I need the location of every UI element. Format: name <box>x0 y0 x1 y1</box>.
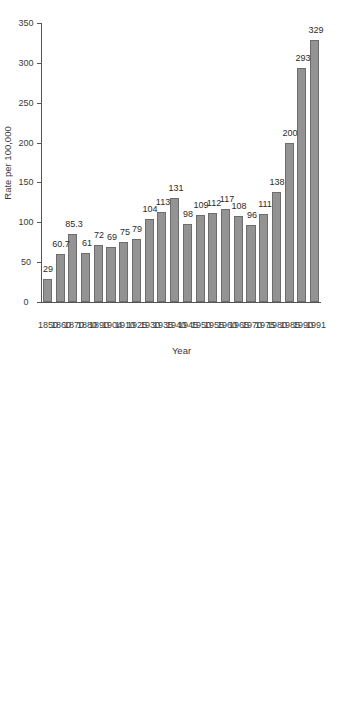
bar-value-label: 131 <box>159 183 193 193</box>
bar-value-label: 329 <box>299 25 333 35</box>
bar-value-label: 200 <box>273 128 307 138</box>
bar <box>310 40 319 302</box>
bar <box>106 247 115 302</box>
value-axis-tick-label: 250 <box>11 98 41 108</box>
bar <box>119 242 128 302</box>
value-axis-tick-label: 150 <box>11 177 41 187</box>
value-axis-tick-label: 100 <box>11 217 41 227</box>
value-axis-tick-label: 200 <box>11 138 41 148</box>
bar <box>183 224 192 302</box>
bar <box>259 214 268 302</box>
bar <box>234 216 243 302</box>
bar-value-label: 113 <box>146 197 180 207</box>
bar-value-label: 138 <box>260 177 294 187</box>
bar <box>297 68 306 302</box>
bar <box>246 225 255 302</box>
bar <box>196 215 205 302</box>
category-axis-label: 1991 <box>299 320 333 330</box>
chart-canvas: 050100150200250300350 2960.785.361726975… <box>0 0 339 721</box>
bar <box>208 213 217 302</box>
rotated-chart-container: 050100150200250300350 2960.785.361726975… <box>0 0 339 721</box>
bar-value-label: 98 <box>171 209 205 219</box>
bar-value-label: 293 <box>286 53 320 63</box>
bar-value-label: 85.3 <box>57 219 91 229</box>
bar <box>157 212 166 302</box>
value-axis-spine <box>41 23 42 302</box>
bar-value-label: 111 <box>248 199 282 209</box>
value-axis-tick-label: 350 <box>11 18 41 28</box>
bar <box>94 245 103 302</box>
value-axis-tick-label: 300 <box>11 58 41 68</box>
bar <box>43 279 52 302</box>
bar <box>81 253 90 302</box>
value-axis-tick-label: 0 <box>11 297 41 307</box>
value-axis-title: Rate per 100,000 <box>2 118 13 208</box>
bar <box>285 143 294 302</box>
category-axis-title: Year <box>162 345 202 356</box>
category-axis-spine <box>41 302 321 303</box>
bar <box>56 254 65 302</box>
bar-value-label: 79 <box>120 224 154 234</box>
plot-area: 050100150200250300350 2960.785.361726975… <box>0 0 339 721</box>
bar-value-label: 96 <box>235 210 269 220</box>
bar <box>132 239 141 302</box>
bar <box>221 209 230 302</box>
bar-value-label: 29 <box>31 264 65 274</box>
